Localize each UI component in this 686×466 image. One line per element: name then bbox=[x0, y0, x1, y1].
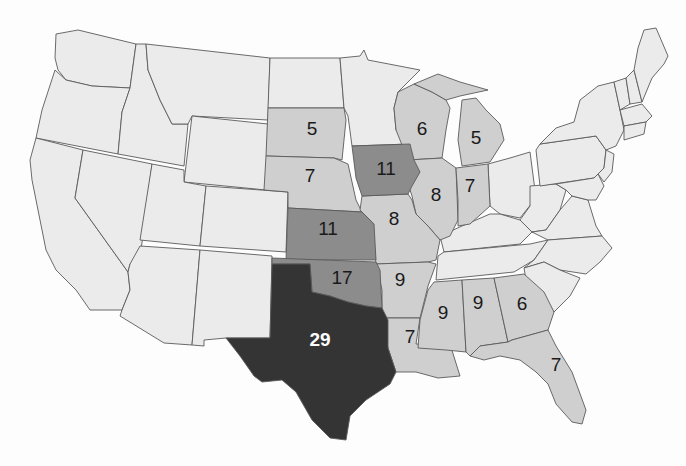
label-south-dakota: 5 bbox=[307, 118, 318, 139]
label-texas: 29 bbox=[309, 329, 330, 350]
label-georgia: 6 bbox=[517, 293, 528, 314]
label-wisconsin: 6 bbox=[417, 118, 428, 139]
label-kansas: 11 bbox=[318, 218, 338, 239]
label-missouri: 8 bbox=[389, 208, 400, 229]
state-arizona[interactable] bbox=[120, 246, 200, 345]
label-florida: 7 bbox=[551, 354, 562, 375]
state-colorado[interactable] bbox=[200, 186, 288, 252]
label-alabama: 9 bbox=[473, 292, 484, 313]
us-choropleth-map: 5 7 11 11 17 29 8 9 7 6 5 8 7 9 9 6 7 bbox=[0, 0, 686, 466]
state-north-dakota[interactable] bbox=[268, 58, 344, 108]
label-iowa: 11 bbox=[376, 158, 396, 179]
label-mississippi: 9 bbox=[438, 302, 449, 323]
label-arkansas: 9 bbox=[395, 269, 406, 290]
label-louisiana: 7 bbox=[405, 326, 416, 347]
label-michigan: 5 bbox=[471, 127, 482, 148]
label-oklahoma: 17 bbox=[331, 267, 352, 288]
label-nebraska: 7 bbox=[305, 165, 316, 186]
map-svg: 5 7 11 11 17 29 8 9 7 6 5 8 7 9 9 6 7 bbox=[0, 0, 686, 466]
state-washington[interactable] bbox=[55, 30, 136, 88]
label-indiana: 7 bbox=[465, 175, 476, 196]
label-illinois: 8 bbox=[431, 184, 442, 205]
state-new-mexico[interactable] bbox=[192, 250, 272, 346]
state-wyoming[interactable] bbox=[184, 116, 268, 190]
state-maine[interactable] bbox=[634, 28, 668, 102]
